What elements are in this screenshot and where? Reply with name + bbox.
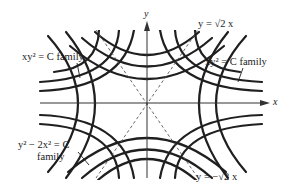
x-axis-label: x xyxy=(273,97,277,107)
xy2-family-label-right: xy² = C family xyxy=(205,57,267,68)
x-axis-arrow-icon xyxy=(260,100,270,106)
xy2-curve-right-lower-1 xyxy=(175,124,262,178)
xy2-family-label-left: xy² = C family xyxy=(22,52,84,63)
asymptote-pos-label: y = √2 x xyxy=(198,19,233,30)
asymptote-neg-label: y = −√2 x xyxy=(196,172,237,183)
y-axis-arrow-icon xyxy=(144,21,150,31)
y2-2x2-family-label-line2: family xyxy=(37,152,64,163)
y2-2x2-family-label-line1: y² − 2x² = C xyxy=(18,140,69,151)
y-axis-label: y xyxy=(144,9,148,19)
